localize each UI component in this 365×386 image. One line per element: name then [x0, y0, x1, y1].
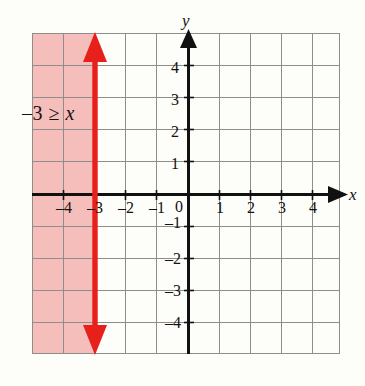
inequality-relation-icon: ≥: [49, 102, 60, 124]
x-tick-label-neg4: –4: [56, 200, 72, 216]
inequality-lhs: –3: [22, 102, 43, 124]
x-tick-label-neg1: –1: [149, 200, 165, 216]
y-tick-label-3: 3: [171, 92, 179, 108]
x-tick-label-3: 3: [278, 200, 286, 216]
y-tick-label-neg1: –1: [165, 215, 181, 231]
inequality-label: –3 ≥ x: [22, 103, 75, 123]
x-tick-label-neg3: –3: [87, 200, 103, 216]
y-axis: [180, 29, 197, 354]
y-axis-name: y: [182, 12, 190, 29]
x-tick-label-4: 4: [309, 200, 317, 216]
x-tick-label-1: 1: [216, 200, 224, 216]
y-tick-label-neg3: –3: [165, 283, 181, 299]
x-tick-label-neg2: –2: [118, 200, 134, 216]
origin-label: 0: [175, 199, 183, 215]
y-tick-label-1: 1: [171, 156, 179, 172]
y-tick-label-neg2: –2: [165, 251, 181, 267]
inequality-rhs: x: [65, 102, 74, 124]
y-tick-label-2: 2: [171, 124, 179, 140]
x-axis-name: x: [349, 186, 357, 203]
y-tick-label-neg4: –4: [165, 315, 181, 331]
inequality-graph-figure: –4 –3 –2 –1 0 1 2 3 4 4 3 2 1 –1 –2 –3 –…: [0, 0, 365, 386]
y-tick-label-4: 4: [171, 60, 179, 76]
x-tick-label-2: 2: [247, 200, 255, 216]
coordinate-plane-canvas: [0, 0, 365, 386]
